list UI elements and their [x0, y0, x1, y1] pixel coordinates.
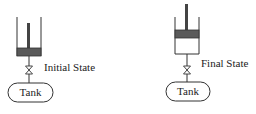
initial-tank-label: Tank [20, 86, 42, 98]
initial-piston [17, 48, 41, 56]
final-piston [175, 30, 199, 38]
diagram-canvas: Tank Initial State Tank Final State [0, 0, 256, 114]
final-piston-rod [185, 4, 188, 31]
initial-piston-rod [27, 23, 30, 49]
final-state-assembly: Tank Final State [166, 4, 248, 101]
final-tank-label: Tank [177, 85, 199, 97]
initial-valve-icon [26, 66, 33, 74]
final-state-label: Final State [201, 57, 248, 69]
initial-state-assembly: Tank Initial State [8, 17, 95, 102]
initial-state-label: Initial State [44, 61, 95, 73]
final-valve-icon [184, 66, 191, 74]
